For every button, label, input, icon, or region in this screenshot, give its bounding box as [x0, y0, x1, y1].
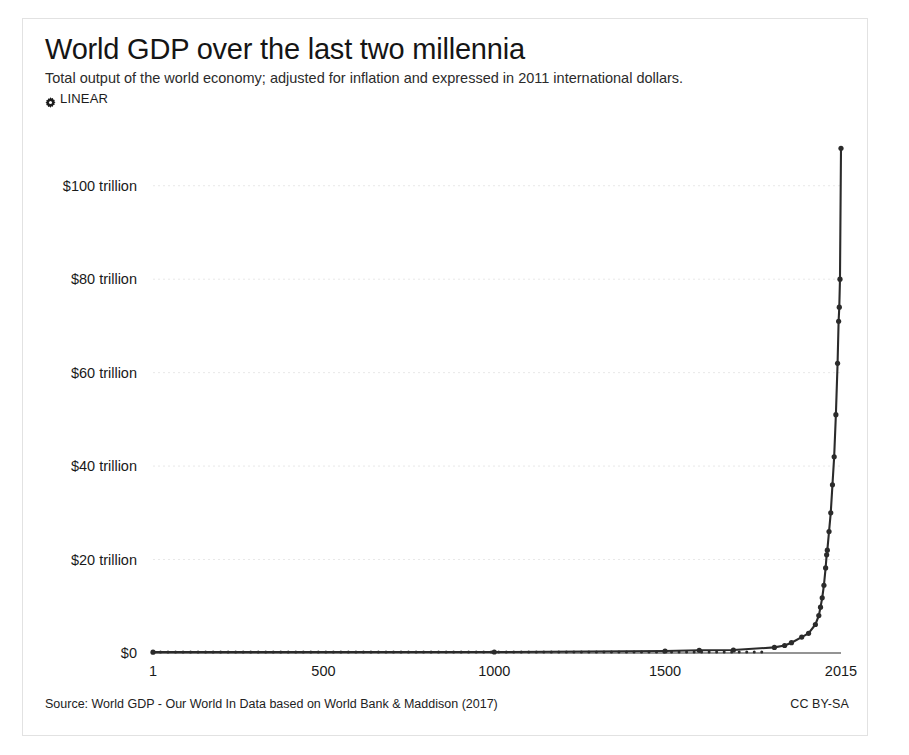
- data-point[interactable]: [512, 651, 515, 654]
- data-point[interactable]: [782, 643, 787, 648]
- data-point[interactable]: [174, 651, 177, 654]
- data-point[interactable]: [685, 651, 688, 654]
- data-point[interactable]: [234, 651, 237, 654]
- data-point[interactable]: [610, 651, 613, 654]
- data-point[interactable]: [505, 651, 508, 654]
- data-point[interactable]: [535, 651, 538, 654]
- data-point[interactable]: [415, 651, 418, 654]
- data-point[interactable]: [655, 651, 658, 654]
- data-point[interactable]: [723, 651, 726, 654]
- data-point[interactable]: [837, 277, 842, 282]
- data-point[interactable]: [580, 651, 583, 654]
- data-point[interactable]: [189, 651, 192, 654]
- data-point[interactable]: [816, 613, 821, 618]
- data-point[interactable]: [760, 651, 763, 654]
- data-point[interactable]: [789, 640, 794, 645]
- data-point[interactable]: [715, 651, 718, 654]
- data-point[interactable]: [400, 651, 403, 654]
- data-point[interactable]: [167, 651, 170, 654]
- data-point[interactable]: [565, 651, 568, 654]
- data-point[interactable]: [287, 651, 290, 654]
- data-point[interactable]: [730, 651, 733, 654]
- data-point[interactable]: [482, 651, 485, 654]
- data-point[interactable]: [828, 510, 833, 515]
- data-point[interactable]: [753, 651, 756, 654]
- data-point[interactable]: [826, 529, 831, 534]
- data-point[interactable]: [836, 319, 841, 324]
- data-point[interactable]: [527, 651, 530, 654]
- data-point[interactable]: [347, 651, 350, 654]
- data-point[interactable]: [738, 651, 741, 654]
- data-point[interactable]: [197, 651, 200, 654]
- data-point[interactable]: [249, 651, 252, 654]
- data-point[interactable]: [542, 651, 545, 654]
- data-point[interactable]: [159, 651, 162, 654]
- data-point[interactable]: [557, 651, 560, 654]
- data-point[interactable]: [823, 565, 828, 570]
- data-point[interactable]: [838, 146, 843, 151]
- data-point[interactable]: [820, 595, 825, 600]
- data-point[interactable]: [369, 651, 372, 654]
- data-point[interactable]: [648, 651, 651, 654]
- data-point[interactable]: [324, 651, 327, 654]
- data-point[interactable]: [824, 552, 829, 557]
- data-point[interactable]: [227, 651, 230, 654]
- data-point[interactable]: [745, 651, 748, 654]
- data-point[interactable]: [617, 651, 620, 654]
- data-point[interactable]: [821, 583, 826, 588]
- data-point[interactable]: [678, 651, 681, 654]
- data-point[interactable]: [700, 651, 703, 654]
- data-point[interactable]: [272, 651, 275, 654]
- data-point[interactable]: [467, 651, 470, 654]
- data-point[interactable]: [332, 651, 335, 654]
- data-point[interactable]: [595, 651, 598, 654]
- data-point[interactable]: [490, 651, 493, 654]
- data-point[interactable]: [430, 651, 433, 654]
- data-point[interactable]: [799, 635, 804, 640]
- data-point[interactable]: [354, 651, 357, 654]
- data-point[interactable]: [242, 651, 245, 654]
- data-point[interactable]: [392, 651, 395, 654]
- data-point[interactable]: [806, 631, 811, 636]
- data-point[interactable]: [279, 651, 282, 654]
- data-point[interactable]: [264, 651, 267, 654]
- data-point[interactable]: [663, 651, 666, 654]
- data-point[interactable]: [825, 548, 830, 553]
- data-point[interactable]: [587, 651, 590, 654]
- data-point[interactable]: [640, 651, 643, 654]
- data-point[interactable]: [339, 651, 342, 654]
- data-point[interactable]: [219, 651, 222, 654]
- data-point[interactable]: [422, 651, 425, 654]
- data-point[interactable]: [182, 651, 185, 654]
- data-point[interactable]: [708, 651, 711, 654]
- data-point[interactable]: [152, 651, 155, 654]
- data-point[interactable]: [602, 651, 605, 654]
- data-point[interactable]: [317, 651, 320, 654]
- data-point[interactable]: [550, 651, 553, 654]
- data-point[interactable]: [384, 651, 387, 654]
- data-point[interactable]: [625, 651, 628, 654]
- data-point[interactable]: [377, 651, 380, 654]
- plot-area[interactable]: $0$20 trillion$40 trillion$60 trillion$8…: [23, 19, 868, 736]
- data-point[interactable]: [475, 651, 478, 654]
- data-point[interactable]: [445, 651, 448, 654]
- data-point[interactable]: [632, 651, 635, 654]
- data-point[interactable]: [309, 651, 312, 654]
- data-point[interactable]: [302, 651, 305, 654]
- data-point[interactable]: [693, 651, 696, 654]
- data-point[interactable]: [204, 651, 207, 654]
- data-point[interactable]: [212, 651, 215, 654]
- data-point[interactable]: [837, 305, 842, 310]
- data-point[interactable]: [520, 651, 523, 654]
- data-point[interactable]: [362, 651, 365, 654]
- data-point[interactable]: [835, 361, 840, 366]
- data-point[interactable]: [497, 651, 500, 654]
- data-point[interactable]: [460, 651, 463, 654]
- data-point[interactable]: [257, 651, 260, 654]
- data-point[interactable]: [832, 454, 837, 459]
- data-point[interactable]: [407, 651, 410, 654]
- data-point[interactable]: [830, 482, 835, 487]
- data-point[interactable]: [294, 651, 297, 654]
- data-point[interactable]: [452, 651, 455, 654]
- data-point[interactable]: [670, 651, 673, 654]
